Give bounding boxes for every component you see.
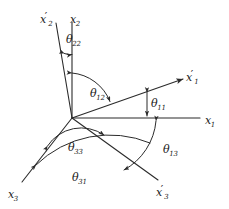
axis-label-x3-prime: x′3 bbox=[156, 183, 169, 199]
angle-label-theta13: θ13 bbox=[163, 140, 179, 156]
axis-label-x1-prime: x′1 bbox=[186, 68, 199, 84]
angle-label-theta12: θ12 bbox=[90, 84, 106, 100]
angle-label-theta33: θ33 bbox=[68, 138, 84, 154]
axis-line-x3 bbox=[22, 118, 72, 182]
angle-label-theta31: θ31 bbox=[72, 168, 88, 184]
axis-label-x3: x3 bbox=[8, 185, 19, 201]
diagram-canvas bbox=[0, 0, 229, 209]
axis-label-x2-prime: x′2 bbox=[40, 10, 53, 26]
angle-label-theta22: θ22 bbox=[66, 30, 82, 46]
angle-label-theta11: θ11 bbox=[151, 94, 167, 110]
angle-arc-theta13 bbox=[124, 121, 156, 170]
axis-label-x1: x1 bbox=[205, 111, 216, 127]
coordinate-rotation-diagram: x2 x′2 x1 x′1 x3 x′3 θ22 θ12 θ11 θ13 θ33… bbox=[0, 0, 229, 209]
axis-label-x2: x2 bbox=[70, 10, 81, 26]
angle-arc-theta22 bbox=[64, 54, 72, 55]
